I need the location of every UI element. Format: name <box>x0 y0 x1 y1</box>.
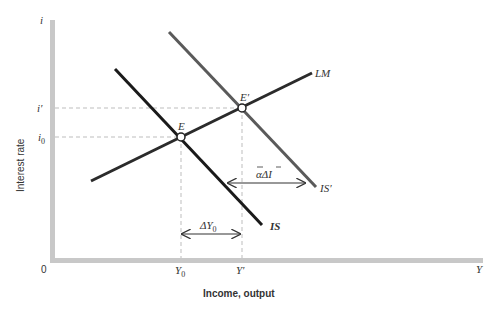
tick-i0: i0 <box>38 131 45 146</box>
y-axis <box>50 20 55 263</box>
is-prime-label: IS′ <box>319 182 332 194</box>
y-axis-label: Interest rate <box>15 138 26 192</box>
x-axis-label: Income, output <box>203 288 275 299</box>
shift-label: αΔI <box>256 167 281 180</box>
guide-lines <box>55 108 242 258</box>
tick-i-prime: i′ <box>37 102 43 114</box>
tick-y0: Y0 <box>175 264 185 279</box>
axes <box>50 20 483 263</box>
equilibrium-e-prime <box>238 104 246 112</box>
delta-y0-sub: 0 <box>213 225 217 234</box>
point-e-label: E <box>177 120 185 132</box>
x-axis-symbol: Y <box>476 263 484 275</box>
delta-y0-label: ΔY0 <box>199 219 217 234</box>
tick-y-prime: Y′ <box>236 264 245 276</box>
is-label: IS <box>269 220 280 232</box>
lm-curve <box>91 73 312 181</box>
tick-y0-sub: 0 <box>181 270 185 279</box>
x-axis <box>50 258 483 263</box>
y-axis-symbol: i <box>40 14 43 26</box>
is-lm-diagram: i i′ i0 Interest rate 0 Y Y0 Y′ Income, … <box>0 0 498 313</box>
tick-i0-sub: 0 <box>41 137 45 146</box>
shift-label-text: αΔI <box>256 168 273 180</box>
equilibrium-e <box>177 133 185 141</box>
lm-label: LM <box>314 67 331 79</box>
point-e-prime-label: E′ <box>239 91 250 103</box>
origin-label: 0 <box>41 264 47 275</box>
